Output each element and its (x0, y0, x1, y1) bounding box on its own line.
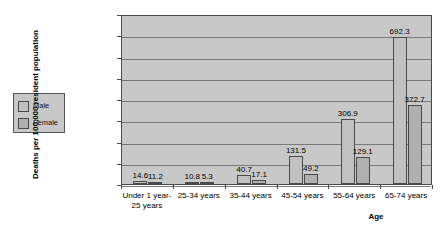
bar-value-label: 372.7 (405, 95, 425, 104)
bar-value-label: 10.8 (184, 172, 200, 181)
x-category-label: 55-64 years (333, 191, 375, 201)
bar-female (252, 180, 266, 184)
x-tick-mark (173, 185, 174, 189)
x-tick-mark (225, 185, 226, 189)
x-tick-mark (432, 185, 433, 189)
x-tick-mark (277, 185, 278, 189)
x-category-label: 25-34 years (178, 191, 220, 201)
bar-value-label: 11.2 (148, 172, 163, 181)
bar-value-label: 40.7 (236, 165, 252, 174)
gridline (122, 144, 431, 145)
x-category-label: Under 1 year-25 years (122, 191, 171, 211)
x-tick-mark (380, 185, 381, 189)
bar-female (356, 157, 370, 184)
x-tick-mark (121, 185, 122, 189)
x-category-label-line: 25 years (122, 201, 171, 211)
bar-value-label: 131.5 (286, 146, 306, 155)
legend-swatch-male-icon (18, 101, 29, 112)
bar-male (133, 181, 147, 184)
bar-value-label: 129.1 (353, 147, 373, 156)
chart-figure: Male Female Deaths per 100,000 resident … (0, 0, 442, 236)
bar-female (408, 105, 422, 184)
x-category-label-line: 25-34 years (178, 191, 220, 201)
legend-item-male: Male (18, 98, 61, 114)
bar-male (393, 37, 407, 184)
bar-female (200, 182, 214, 184)
x-category-label-line: Under 1 year- (122, 191, 171, 201)
bar-value-label: 17.1 (251, 170, 267, 179)
gridline (122, 165, 431, 166)
x-category-label: 45-54 years (281, 191, 323, 201)
bar-value-label: 5.3 (202, 172, 213, 181)
gridline (122, 37, 431, 38)
legend-swatch-female-icon (18, 118, 29, 129)
x-tick-mark (328, 185, 329, 189)
legend-item-female: Female (18, 115, 61, 131)
bar-value-label: 306.9 (338, 109, 358, 118)
x-category-label-line: 45-54 years (281, 191, 323, 201)
bar-female (148, 182, 162, 184)
y-axis-title: Deaths per 100,000 resident population (31, 5, 40, 205)
bar-value-label: 49.2 (303, 164, 319, 173)
gridline (122, 122, 431, 123)
x-category-label-line: 35-44 years (229, 191, 271, 201)
x-axis-title: Age (0, 212, 442, 221)
x-category-label-line: 55-64 years (333, 191, 375, 201)
bar-male (185, 182, 199, 184)
bar-value-label: 14.6 (133, 171, 149, 180)
gridline (122, 80, 431, 81)
bar-male (237, 175, 251, 184)
gridline (122, 101, 431, 102)
bar-male (289, 156, 303, 184)
bar-value-label: 692.3 (390, 27, 410, 36)
x-category-label: 65-74 years (385, 191, 427, 201)
x-category-label-line: 65-74 years (385, 191, 427, 201)
x-axis-title-text: Age (368, 212, 383, 221)
gridline (122, 59, 431, 60)
x-category-label: 35-44 years (229, 191, 271, 201)
plot-area: 14.611.210.85.340.717.1131.549.2306.9129… (121, 15, 432, 185)
bar-female (304, 174, 318, 184)
